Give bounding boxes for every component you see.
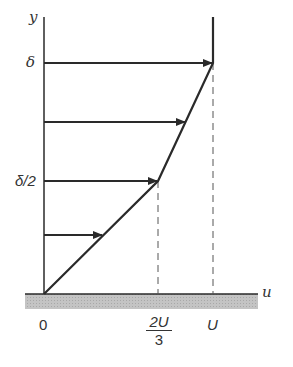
x-tick-zero: 0 [39, 316, 47, 333]
x-tick-two-thirds-u: 2U 3 [146, 313, 172, 348]
wall-surface [25, 294, 258, 309]
y-tick-half-delta: δ/2 [15, 172, 36, 189]
velocity-profile-diagram [0, 0, 293, 367]
x-axis-label: u [262, 283, 272, 301]
velocity-profile-line [44, 17, 213, 294]
y-axis-label: y [29, 8, 37, 26]
x-tick-u: U [207, 316, 218, 333]
y-tick-delta: δ [26, 53, 35, 71]
